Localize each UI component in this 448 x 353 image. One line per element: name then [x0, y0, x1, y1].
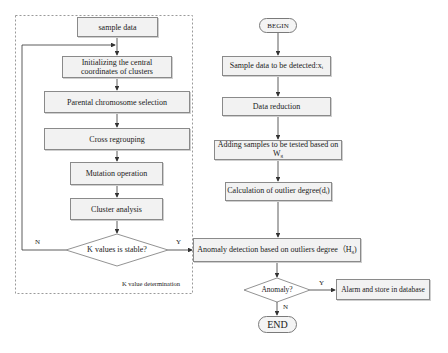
cluster-analysis-box: Cluster analysis	[70, 198, 163, 220]
sample-detect-box: Sample data to be detected:xi	[222, 56, 331, 76]
adding-samples-label: Adding samples to be tested based on Wg	[215, 140, 341, 160]
end-terminator: END	[258, 316, 297, 333]
cross-regrouping-box: Cross regrouping	[44, 128, 190, 150]
parental-selection-label: Parental chromosome selection	[67, 98, 167, 107]
parental-selection-box: Parental chromosome selection	[44, 91, 190, 113]
sample-data-label: sample data	[99, 23, 137, 32]
sample-data-box: sample data	[77, 17, 158, 37]
adding-samples-box: Adding samples to be tested based on Wg	[214, 140, 342, 160]
outlier-calc-label: Calculation of outlier degree(di)	[227, 186, 329, 197]
sample-detect-label: Sample data to be detected:xi	[230, 61, 323, 72]
data-reduction-label: Data reduction	[253, 102, 300, 111]
init-clusters-label: Initializing the central coordinates of …	[67, 58, 167, 76]
data-reduction-box: Data reduction	[222, 97, 331, 116]
alarm-box: Alarm and store in database	[336, 279, 430, 300]
begin-label: BEGIN	[267, 22, 288, 30]
anomaly-no-label: N	[283, 303, 288, 311]
init-clusters-box: Initializing the central coordinates of …	[62, 56, 172, 78]
flowchart-connectors	[0, 0, 448, 353]
end-label: END	[267, 319, 288, 330]
group-label: K value determination	[122, 280, 180, 288]
begin-terminator: BEGIN	[259, 18, 297, 33]
alarm-label: Alarm and store in database	[341, 285, 425, 294]
anomaly-detection-box: Anomaly detection based on outliers degr…	[193, 238, 361, 262]
mutation-label: Mutation operation	[86, 169, 148, 178]
anomaly-yes-label: Y	[319, 279, 324, 287]
outlier-calc-box: Calculation of outlier degree(di)	[225, 182, 332, 201]
k-stable-label: K values is stable?	[66, 245, 168, 254]
cross-regrouping-label: Cross regrouping	[89, 135, 144, 144]
cluster-analysis-label: Cluster analysis	[91, 205, 142, 214]
anomaly-decision-label: Anomaly?	[244, 285, 310, 294]
anomaly-detection-label: Anomaly detection based on outliers degr…	[197, 245, 357, 256]
k-stable-no-label: N	[35, 238, 40, 246]
mutation-box: Mutation operation	[70, 162, 163, 185]
k-stable-yes-label: Y	[176, 238, 181, 246]
